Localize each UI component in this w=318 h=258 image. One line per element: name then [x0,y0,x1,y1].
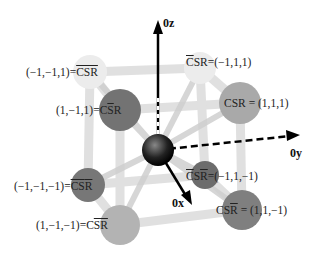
label-1m11: (1,−1,1)=CSR [56,104,121,116]
z-axis-label: 0z [163,16,174,31]
label-m11m1: CSR=(−1,1,−1) [186,170,258,182]
label-1m1m1: (1,−1,−1)=CSR [36,219,108,231]
y-axis-label: 0y [290,146,302,161]
y-arrow-icon [286,130,300,141]
x-axis-label: 0x [172,196,184,211]
label-111: CSR = (1,1,1) [224,97,289,109]
label-m1m1m1: (−1,−1,−1)=CSR [14,180,92,192]
z-arrow-icon [153,20,163,34]
label-m1m11: (−1,−1,1)=CSR [26,66,98,78]
center-sphere [142,134,174,166]
label-m111: CSR=(−1,1,1) [186,56,251,68]
label-11m1: CSR = (1,1,−1) [216,204,287,216]
